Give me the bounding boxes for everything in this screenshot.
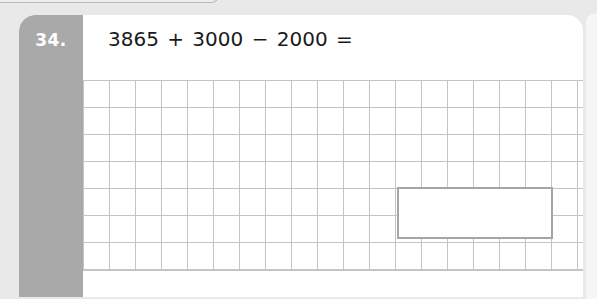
previous-question-card-edge xyxy=(0,0,219,3)
answer-box[interactable] xyxy=(397,187,553,239)
question-number-tab: 34. xyxy=(19,15,83,297)
next-question-card-edge xyxy=(586,14,597,299)
question-expression: 3865 + 3000 − 2000 = xyxy=(108,27,353,51)
question-number: 34. xyxy=(19,30,83,50)
working-grid[interactable] xyxy=(83,80,583,271)
question-card: 34. 3865 + 3000 − 2000 = xyxy=(19,15,583,297)
